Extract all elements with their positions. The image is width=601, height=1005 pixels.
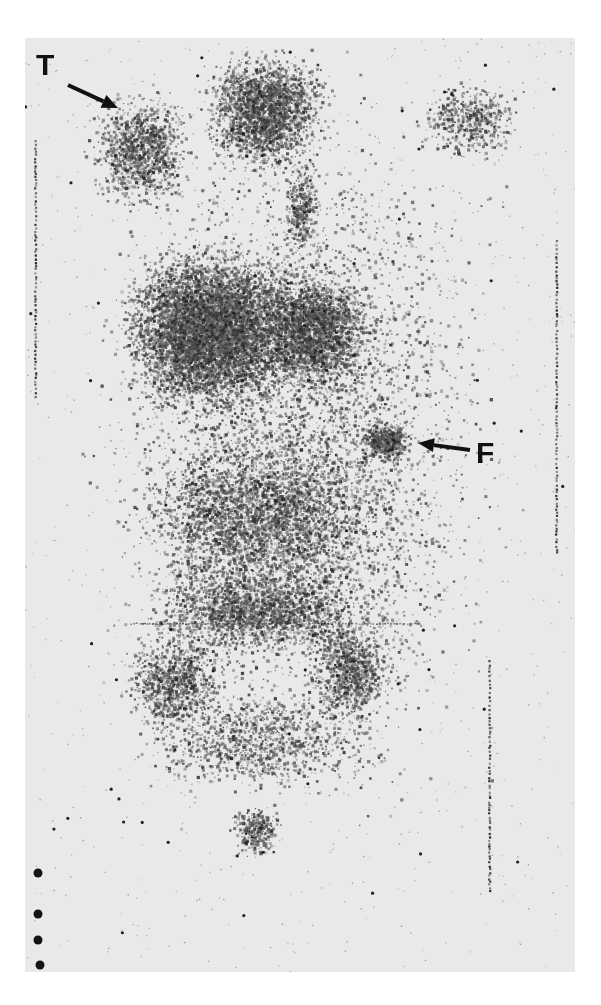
annotation-label-t: T xyxy=(36,50,54,80)
annotation-label-f: F xyxy=(476,438,494,468)
scintigram-image xyxy=(25,38,575,972)
scintigram-film xyxy=(25,38,575,972)
